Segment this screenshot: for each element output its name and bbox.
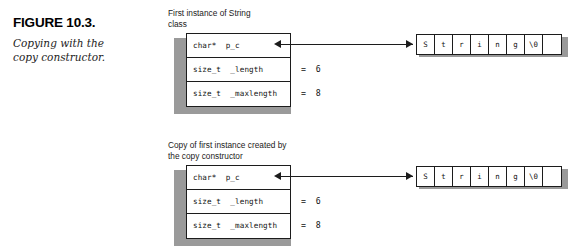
figure-caption-text: Copying with the copy constructor.: [13, 36, 125, 64]
char-cell: g: [507, 35, 525, 54]
struct-group-first-instance: char* p_c size_t _length size_t _maxleng…: [168, 33, 408, 113]
char-cell: t: [435, 35, 453, 54]
char-cell: [543, 167, 561, 186]
struct-field-label: size_t _maxlength: [193, 221, 277, 230]
struct-value: = 8: [301, 213, 349, 237]
diagram-copy-instance: Copy of first instance created by the co…: [168, 140, 408, 245]
char-cell: i: [471, 35, 489, 54]
char-cell: g: [507, 167, 525, 186]
struct-field-label: size_t _length: [193, 197, 263, 206]
pointer-arrowhead-right-icon: [406, 40, 413, 48]
char-cell: r: [453, 167, 471, 186]
struct-group-copy-instance: char* p_c size_t _length size_t _maxleng…: [168, 165, 408, 245]
char-array-copy-instance: S t r i n g \0: [416, 166, 562, 187]
char-cell: \0: [525, 167, 543, 186]
char-cell: \0: [525, 35, 543, 54]
struct-value: = 6: [301, 189, 349, 213]
struct-field-label: size_t _length: [193, 65, 263, 74]
pointer-arrowhead-right-icon: [406, 172, 413, 180]
struct-value: = 6: [301, 57, 349, 81]
diagram-label-copy-instance: Copy of first instance created by the co…: [168, 140, 408, 163]
figure-caption-block: FIGURE 10.3. Copying with the copy const…: [13, 16, 133, 64]
char-cell: r: [453, 35, 471, 54]
char-array-group-first-instance: S t r i n g \0: [416, 34, 568, 58]
char-array-group-copy-instance: S t r i n g \0: [416, 166, 568, 190]
char-cell: t: [435, 167, 453, 186]
pointer-connector-line: [280, 176, 413, 177]
char-cell: S: [417, 35, 435, 54]
struct-row: size_t _length: [187, 58, 290, 82]
struct-field-label: char* p_c: [193, 173, 240, 182]
char-cell: i: [471, 167, 489, 186]
struct-field-label: size_t _maxlength: [193, 89, 277, 98]
struct-row: size_t _length: [187, 190, 290, 214]
struct-row: size_t _maxlength: [187, 82, 290, 106]
diagram-label-first-instance: First instance of String class: [168, 8, 408, 31]
char-cell: n: [489, 167, 507, 186]
char-cell: S: [417, 167, 435, 186]
pointer-connector-line: [280, 44, 413, 45]
char-cell: n: [489, 35, 507, 54]
diagram-first-instance: First instance of String class char* p_c…: [168, 8, 408, 113]
figure-number: FIGURE 10.3.: [13, 16, 133, 31]
char-cell: [543, 35, 561, 54]
struct-value: = 8: [301, 81, 349, 105]
struct-field-label: char* p_c: [193, 41, 240, 50]
char-array-first-instance: S t r i n g \0: [416, 34, 562, 55]
struct-row: size_t _maxlength: [187, 214, 290, 238]
